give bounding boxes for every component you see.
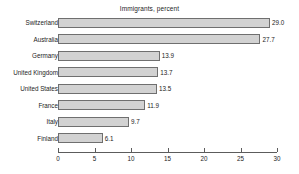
value-label-australia: 27.7 bbox=[263, 34, 275, 46]
bar-chart: Immigrants, percent Switzerland 29.0 Aus… bbox=[0, 0, 299, 174]
x-axis-tick-label: 15 bbox=[156, 155, 180, 162]
bar-switzerland[interactable] bbox=[58, 18, 270, 28]
value-label-france: 11.9 bbox=[147, 100, 159, 112]
category-label-italy: Italy bbox=[46, 116, 58, 128]
x-axis-tick bbox=[277, 148, 278, 152]
bar-row: United States 13.5 bbox=[0, 83, 299, 95]
bar-row: Switzerland 29.0 bbox=[0, 17, 299, 29]
plot-area: Switzerland 29.0 Australia 27.7 Germany … bbox=[0, 0, 299, 174]
x-axis-tick bbox=[95, 148, 96, 152]
x-axis-tick bbox=[58, 148, 59, 152]
x-axis-tick bbox=[204, 148, 205, 152]
category-label-switzerland: Switzerland bbox=[25, 17, 58, 29]
bar-row: Finland 6.1 bbox=[0, 133, 299, 145]
bar-australia[interactable] bbox=[58, 34, 260, 44]
category-label-united-kingdom: United Kingdom bbox=[13, 67, 58, 79]
bar-france[interactable] bbox=[58, 100, 145, 110]
value-label-finland: 6.1 bbox=[105, 133, 114, 145]
x-axis-tick-label: 10 bbox=[119, 155, 143, 162]
x-axis-tick-label: 20 bbox=[192, 155, 216, 162]
bar-finland[interactable] bbox=[58, 133, 103, 143]
bar-germany[interactable] bbox=[58, 51, 160, 61]
value-label-italy: 9.7 bbox=[131, 116, 140, 128]
x-axis-tick-label: 5 bbox=[83, 155, 107, 162]
bar-italy[interactable] bbox=[58, 117, 129, 127]
x-axis-tick bbox=[131, 148, 132, 152]
category-label-finland: Finland bbox=[37, 133, 58, 145]
category-label-germany: Germany bbox=[32, 50, 58, 62]
bar-row: United Kingdom 13.7 bbox=[0, 67, 299, 79]
bar-row: Australia 27.7 bbox=[0, 34, 299, 46]
category-label-australia: Australia bbox=[34, 34, 59, 46]
x-axis-tick bbox=[241, 148, 242, 152]
x-axis-tick bbox=[168, 148, 169, 152]
x-axis-line bbox=[58, 152, 277, 153]
bar-row: Germany 13.9 bbox=[0, 50, 299, 62]
category-label-france: France bbox=[38, 100, 58, 112]
bar-united-states[interactable] bbox=[58, 84, 157, 94]
x-axis-tick-label: 0 bbox=[46, 155, 70, 162]
category-label-united-states: United States bbox=[20, 83, 58, 95]
bar-row: France 11.9 bbox=[0, 100, 299, 112]
bar-united-kingdom[interactable] bbox=[58, 67, 158, 77]
value-label-united-kingdom: 13.7 bbox=[160, 67, 172, 79]
x-axis-tick-label: 30 bbox=[265, 155, 289, 162]
x-axis-tick-label: 25 bbox=[229, 155, 253, 162]
bar-row: Italy 9.7 bbox=[0, 116, 299, 128]
value-label-united-states: 13.5 bbox=[159, 83, 171, 95]
value-label-switzerland: 29.0 bbox=[272, 17, 284, 29]
value-label-germany: 13.9 bbox=[162, 50, 174, 62]
